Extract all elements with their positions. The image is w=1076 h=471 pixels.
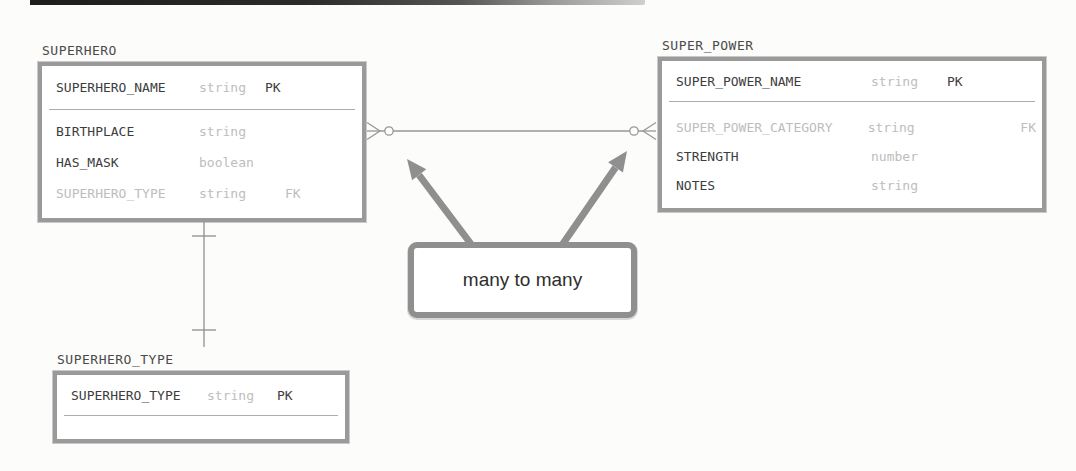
table-row: BIRTHPLACE string (42, 116, 362, 147)
column-name: NOTES (676, 178, 871, 193)
fk-badge: FK (1020, 120, 1036, 135)
column-name: SUPERHERO_TYPE (71, 388, 207, 403)
table-body: BIRTHPLACE string HAS_MASK boolean SUPER… (42, 110, 362, 209)
column-type: string (871, 74, 947, 89)
scanned-page-edge-bar (30, 0, 645, 5)
callout-label: many to many (463, 269, 582, 291)
column-type: string (199, 124, 265, 139)
column-name: SUPERHERO_TYPE (56, 186, 199, 201)
column-name: SUPERHERO_NAME (56, 80, 199, 95)
column-type: string (871, 178, 947, 193)
table-row: NOTES string (662, 171, 1042, 200)
column-type: string (199, 186, 265, 201)
column-name: BIRTHPLACE (56, 124, 199, 139)
relationship-superhero-superpower (367, 123, 656, 140)
column-type: string (199, 80, 265, 95)
many-to-many-callout: many to many (408, 242, 637, 318)
crows-foot-left-icon (367, 123, 393, 140)
pk-badge: PK (947, 74, 963, 89)
column-name: STRENGTH (676, 149, 871, 164)
entity-group-super-power: SUPER_POWER SUPER_POWER_NAME string PK S… (658, 39, 1046, 212)
column-type: boolean (199, 155, 265, 170)
entity-table-super-power: SUPER_POWER_NAME string PK SUPER_POWER_C… (658, 57, 1046, 212)
crows-foot-right-icon (630, 123, 656, 140)
column-type: string (207, 388, 277, 403)
entity-table-superhero: SUPERHERO_NAME string PK BIRTHPLACE stri… (38, 62, 366, 222)
table-row-primary-key: SUPER_POWER_NAME string PK (662, 61, 1042, 101)
pk-badge: PK (277, 388, 293, 403)
column-name: SUPER_POWER_CATEGORY (676, 120, 868, 135)
column-type: number (871, 149, 947, 164)
pk-badge: PK (265, 80, 281, 95)
callout-arrows (407, 151, 627, 248)
fk-badge: FK (285, 186, 301, 201)
entity-group-superhero: SUPERHERO SUPERHERO_NAME string PK BIRTH… (38, 44, 366, 222)
column-type: string (868, 120, 943, 135)
entity-title-superhero: SUPERHERO (38, 44, 366, 58)
table-body: SUPER_POWER_CATEGORY string FK STRENGTH … (662, 102, 1042, 200)
table-row-primary-key: SUPERHERO_TYPE string PK (57, 375, 345, 415)
entity-table-superhero-type: SUPERHERO_TYPE string PK (53, 371, 349, 443)
entity-group-superhero-type: SUPERHERO_TYPE SUPERHERO_TYPE string PK (53, 353, 349, 443)
entity-title-superhero-type: SUPERHERO_TYPE (53, 353, 349, 367)
table-body-empty (57, 416, 345, 437)
table-row-foreign-key: SUPERHERO_TYPE string FK (42, 178, 362, 209)
table-row-foreign-key: SUPER_POWER_CATEGORY string FK (662, 113, 1042, 142)
entity-title-super-power: SUPER_POWER (658, 39, 1046, 53)
table-row: HAS_MASK boolean (42, 147, 362, 178)
table-row: STRENGTH number (662, 142, 1042, 171)
column-name: SUPER_POWER_NAME (676, 74, 871, 89)
arrow-right-icon (560, 151, 627, 248)
er-diagram-canvas: SUPERHERO SUPERHERO_NAME string PK BIRTH… (0, 0, 1076, 471)
relationship-superhero-superherotype (192, 222, 216, 347)
column-name: HAS_MASK (56, 155, 199, 170)
table-row-primary-key: SUPERHERO_NAME string PK (42, 66, 362, 109)
arrow-left-icon (407, 159, 474, 248)
